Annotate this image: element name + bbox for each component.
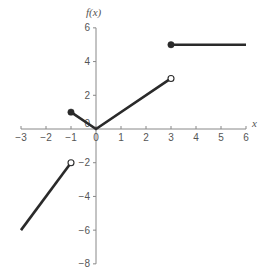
series-line-piece-1 (21, 163, 71, 230)
x-tick-label: −1 (65, 132, 77, 143)
x-tick-label: 2 (143, 132, 149, 143)
x-tick-label: −3 (15, 132, 27, 143)
y-tick-label: −6 (79, 225, 91, 236)
y-tick-label: −8 (79, 258, 91, 269)
y-tick-label: −4 (79, 191, 91, 202)
y-tick-label: 2 (84, 90, 90, 101)
x-tick-label: 1 (118, 132, 124, 143)
open-endpoint-marker (168, 75, 174, 81)
data-series (21, 42, 246, 231)
x-tick-label: 4 (193, 132, 199, 143)
y-tick-label: 4 (84, 56, 90, 67)
y-tick-label: −2 (79, 157, 91, 168)
x-tick-label: 5 (218, 132, 224, 143)
x-tick-label: 6 (243, 132, 249, 143)
closed-endpoint-marker (168, 42, 174, 48)
y-tick-label: 6 (84, 22, 90, 33)
series-line-piece-2 (71, 78, 171, 129)
x-axis-title: x (251, 117, 257, 129)
y-axis-title: f(x) (86, 6, 102, 19)
x-tick-label: 0 (93, 132, 99, 143)
ticks: −3−2−10123456−8−6−4−20246 (15, 22, 249, 269)
open-endpoint-marker (68, 160, 74, 166)
piecewise-function-chart: −3−2−10123456−8−6−4−20246 x f(x) (0, 0, 269, 278)
x-tick-label: 3 (168, 132, 174, 143)
x-tick-label: −2 (40, 132, 52, 143)
closed-endpoint-marker (68, 109, 74, 115)
axes (21, 28, 246, 264)
